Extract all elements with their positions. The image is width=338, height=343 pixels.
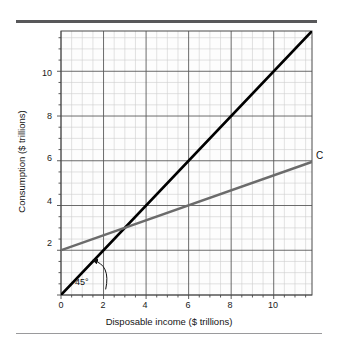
y-tick-label-2: 2 — [32, 238, 52, 248]
y-tick-label-6: 6 — [32, 153, 52, 163]
chart-plot-svg — [0, 0, 338, 343]
angle-label-45: 45° — [75, 277, 89, 287]
x-tick-label-6: 6 — [185, 300, 190, 310]
y-tick-label-8: 8 — [32, 111, 52, 121]
y-axis-title: Consumption ($ trillions) — [16, 72, 27, 252]
x-tick-label-10: 10 — [268, 300, 278, 310]
y-tick-label-10: 10 — [32, 68, 52, 78]
x-axis-title: Disposable income ($ trillions) — [0, 316, 338, 327]
x-tick-label-0: 0 — [58, 300, 63, 310]
x-tick-label-2: 2 — [100, 300, 105, 310]
y-tick-label-4: 4 — [32, 196, 52, 206]
x-tick-label-8: 8 — [227, 300, 232, 310]
curve-label-c: C — [316, 150, 323, 161]
figure-container: 0 2 4 6 8 10 2 4 6 8 10 Disposable incom… — [0, 0, 338, 343]
x-tick-label-4: 4 — [142, 300, 147, 310]
